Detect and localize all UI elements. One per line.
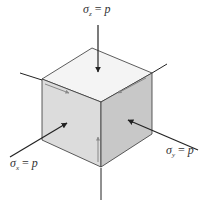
sigma-x-equals: = (19, 156, 32, 170)
sigma-z-equals: = (92, 2, 105, 16)
sigma-z-value: p (104, 2, 110, 16)
sigma-x-label: σx = p (10, 157, 38, 174)
x-axis-stub (20, 73, 42, 80)
sigma-y-equals: = (175, 143, 188, 157)
sigma-y-label: σy = p (166, 144, 194, 161)
sigma-y-value: p (188, 143, 194, 157)
sigma-x-value: p (32, 156, 38, 170)
y-axis-stub (152, 64, 167, 73)
sigma-z-label: σz = p (83, 3, 110, 20)
